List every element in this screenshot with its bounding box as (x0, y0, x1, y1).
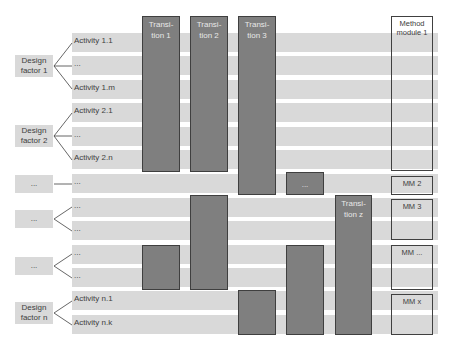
method-module-2-box: MM 2 (391, 176, 433, 195)
method-module-x-box: MM x (391, 294, 433, 335)
transition-3-segment (238, 290, 276, 335)
method-module-ellipsis-box: MM ... (391, 245, 433, 290)
method-module-label: Method module 1 (397, 19, 428, 37)
transition-label: Transi-tion z (341, 199, 366, 219)
transition-z-box: Transi-tion z (335, 195, 372, 335)
method-module-3-box: MM 3 (391, 199, 433, 240)
transition-ellipsis-segment (286, 245, 324, 335)
method-module-label: MM x (403, 297, 421, 306)
transition-2-segment (190, 195, 228, 290)
method-module-label: MM 3 (403, 202, 422, 211)
transition-label: Transi-tion 3 (245, 20, 270, 40)
transition-3-box: Transi-tion 3 (238, 16, 276, 195)
transition-label: Transi-tion 2 (197, 20, 222, 40)
transition-ellipsis-box: ... (286, 172, 324, 195)
method-module-label: MM ... (402, 248, 423, 257)
transition-1-box: Transi-tion 1 (142, 16, 180, 172)
transition-1-segment (142, 245, 180, 290)
transition-label: ... (302, 180, 309, 189)
method-module-label: MM 2 (403, 179, 422, 188)
transition-label: Transi-tion 1 (149, 20, 174, 40)
transition-2-box: Transi-tion 2 (190, 16, 228, 172)
method-module-1-box: Method module 1 (391, 16, 433, 171)
